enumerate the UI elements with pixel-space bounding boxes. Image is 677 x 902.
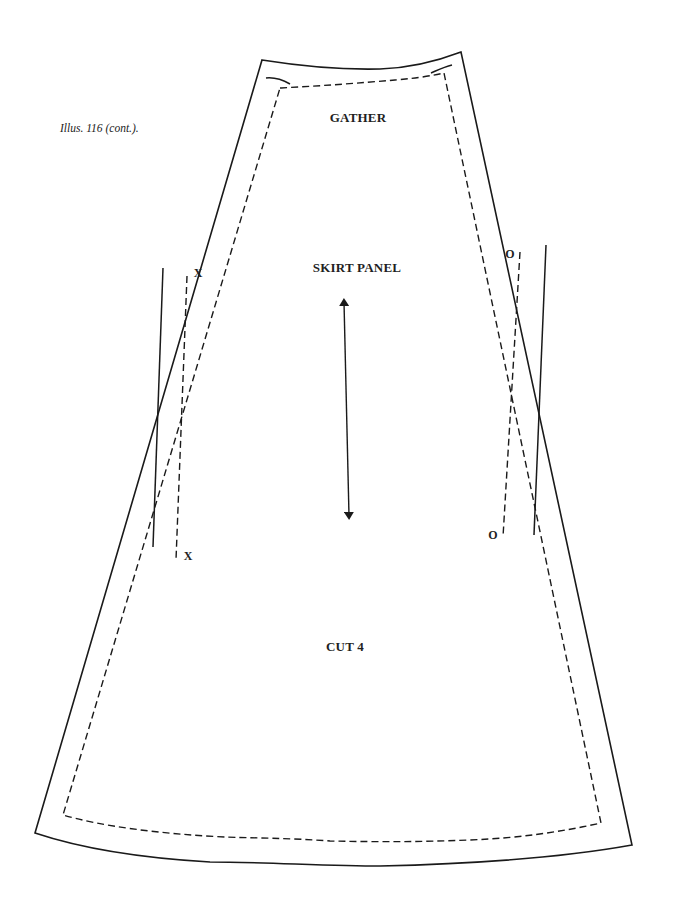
right-facing-seam-line xyxy=(503,252,520,537)
gather-mark-right xyxy=(431,65,452,73)
skirt-panel-label: SKIRT PANEL xyxy=(313,260,401,276)
skirt-panel-pattern-diagram xyxy=(0,0,677,902)
gather-label: GATHER xyxy=(330,110,387,126)
notch-mark-o-bottom: O xyxy=(488,528,497,543)
notch-mark-x-bottom: X xyxy=(184,549,193,564)
gather-mark-left xyxy=(266,78,290,84)
cut-quantity-label: CUT 4 xyxy=(326,639,364,655)
seam-line-dashed xyxy=(63,73,601,842)
grainline-arrow xyxy=(344,302,349,516)
cutting-line-outline xyxy=(35,52,632,866)
illustration-caption: Illus. 116 (cont.). xyxy=(60,122,139,134)
left-facing-cutting-line xyxy=(153,268,163,547)
right-facing-cutting-line xyxy=(534,245,546,535)
notch-mark-o-top: O xyxy=(505,247,514,262)
notch-mark-x-top: X xyxy=(194,266,203,281)
